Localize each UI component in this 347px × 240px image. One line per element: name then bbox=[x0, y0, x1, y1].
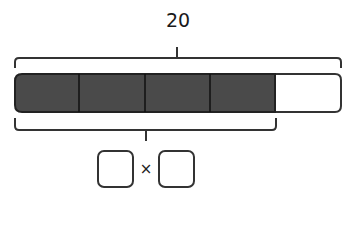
factor-input-box-left[interactable] bbox=[97, 150, 134, 188]
top-brace bbox=[15, 47, 341, 68]
bottom-brace bbox=[15, 118, 276, 141]
multiply-sign: × bbox=[139, 160, 153, 178]
factor-input-box-right[interactable] bbox=[158, 150, 195, 188]
tape-bar bbox=[15, 74, 341, 112]
